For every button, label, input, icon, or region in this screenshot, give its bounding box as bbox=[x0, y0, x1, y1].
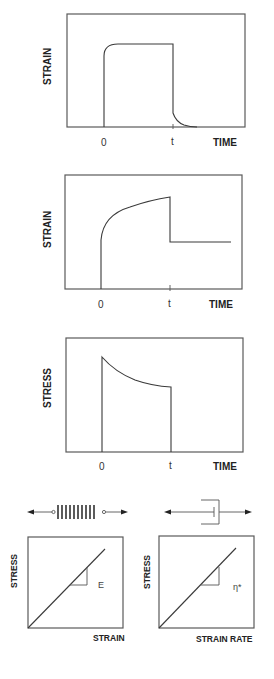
y-axis-label: STRAIN bbox=[42, 211, 53, 248]
y-axis-label: STRESS bbox=[42, 368, 53, 408]
panel-spring-model: E STRESS STRAIN bbox=[9, 537, 125, 643]
creep-curve bbox=[101, 197, 231, 289]
slope-label: η* bbox=[233, 582, 242, 592]
panel-creep: STRAIN 0 t TIME bbox=[42, 175, 242, 310]
viscoelasticity-diagram: STRAIN 0 t TIME STRAIN 0 t TIME STRESS 0… bbox=[0, 0, 274, 679]
panel-dashpot-model: η* STRESS STRAIN RATE bbox=[142, 536, 254, 644]
stress-curve bbox=[102, 357, 171, 452]
x-axis-label: TIME bbox=[213, 461, 237, 472]
plot-frame bbox=[67, 14, 245, 127]
x-axis-label: STRAIN RATE bbox=[196, 634, 253, 644]
x-axis-label: STRAIN bbox=[93, 633, 125, 643]
linear-response-line bbox=[159, 548, 236, 628]
plot-frame bbox=[28, 537, 123, 628]
plot-frame bbox=[66, 338, 243, 452]
x-axis-label: TIME bbox=[209, 299, 233, 310]
tick-label-t: t bbox=[169, 460, 172, 471]
tick-label-t: t bbox=[168, 298, 171, 309]
slope-label: E bbox=[98, 580, 104, 590]
tick-label-zero: 0 bbox=[101, 137, 107, 148]
linear-response-line bbox=[28, 549, 105, 628]
strain-curve bbox=[104, 44, 197, 127]
y-axis-label: STRAIN bbox=[42, 48, 53, 85]
panel-stress-relaxation: STRESS 0 t TIME bbox=[42, 338, 243, 472]
y-axis-label: STRESS bbox=[9, 554, 19, 588]
y-axis-label: STRESS bbox=[142, 555, 152, 589]
dashpot-icon bbox=[164, 500, 252, 524]
tick-label-t: t bbox=[171, 136, 174, 147]
tick-label-zero: 0 bbox=[98, 299, 104, 310]
panel-strain-recovery: STRAIN 0 t TIME bbox=[42, 14, 245, 148]
spring-icon bbox=[27, 505, 128, 519]
plot-frame bbox=[65, 175, 242, 289]
tick-label-zero: 0 bbox=[99, 461, 105, 472]
x-axis-label: TIME bbox=[213, 137, 237, 148]
